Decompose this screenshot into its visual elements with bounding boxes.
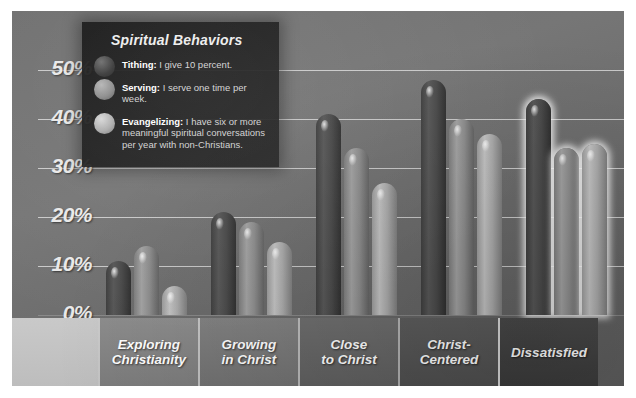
bar-highlight-gloss <box>377 189 385 201</box>
legend-item-text: Evangelizing: I have six or more meaning… <box>122 114 269 151</box>
y-axis-tick-label: 20% <box>20 203 92 227</box>
bar-highlight-gloss <box>244 228 252 240</box>
legend-panel: Spiritual Behaviors Tithing: I give 10 p… <box>82 22 279 167</box>
legend-item[interactable]: Evangelizing: I have six or more meaning… <box>92 114 269 151</box>
bar-evangelizing-exploring-christianity[interactable] <box>162 286 187 315</box>
legend-item[interactable]: Tithing: I give 10 percent. <box>92 57 269 71</box>
bar-serving-christ-centered[interactable] <box>449 119 474 315</box>
bar-group[interactable] <box>308 70 408 315</box>
category-label-text: Christ-Centered <box>420 337 479 367</box>
category-label-strip: ExploringChristianityGrowingin ChristClo… <box>12 318 624 386</box>
legend-item-text: Serving: I serve one time per week. <box>122 80 269 105</box>
bar-tithing-close-to-christ[interactable] <box>316 114 341 315</box>
legend-item-list: Tithing: I give 10 percent.Serving: I se… <box>92 57 269 150</box>
bar-highlight-gloss <box>111 267 119 279</box>
bar-evangelizing-growing-in-christ[interactable] <box>267 242 292 316</box>
category-label-christ-centered[interactable]: Christ-Centered <box>398 318 498 386</box>
bar-evangelizing-christ-centered[interactable] <box>477 134 502 315</box>
chart-screenshot: 50%40%30%20%10%0% ExploringChristianityG… <box>0 0 636 398</box>
legend-item-name: Serving: <box>122 82 160 93</box>
bar-highlight-gloss <box>531 105 539 117</box>
bar-tithing-growing-in-christ[interactable] <box>211 212 236 315</box>
category-label-text: Closeto Christ <box>321 337 377 367</box>
category-label-exploring-christianity[interactable]: ExploringChristianity <box>98 318 198 386</box>
legend-item-name: Evangelizing: <box>122 116 183 127</box>
bar-group[interactable] <box>413 70 513 315</box>
legend-swatch-evangelizing <box>94 113 115 134</box>
bar-highlight-gloss <box>559 154 567 166</box>
category-label-text: Growingin Christ <box>222 337 277 367</box>
bar-serving-close-to-christ[interactable] <box>344 148 369 315</box>
legend-swatch-serving <box>94 79 115 100</box>
category-label-close-to-christ[interactable]: Closeto Christ <box>298 318 398 386</box>
bar-highlight-gloss <box>321 120 329 132</box>
legend-item[interactable]: Serving: I serve one time per week. <box>92 80 269 105</box>
category-labels: ExploringChristianityGrowingin ChristClo… <box>98 318 598 386</box>
bar-highlight-gloss <box>139 252 147 264</box>
bar-evangelizing-dissatisfied[interactable] <box>582 144 607 316</box>
bar-group[interactable] <box>518 70 618 315</box>
legend-swatch-tithing <box>94 56 115 77</box>
bar-tithing-exploring-christianity[interactable] <box>106 261 131 315</box>
category-label-text: ExploringChristianity <box>112 337 186 367</box>
bar-highlight-gloss <box>454 125 462 137</box>
bar-highlight-gloss <box>587 150 595 162</box>
category-label-growing-in-christ[interactable]: Growingin Christ <box>198 318 298 386</box>
legend-item-name: Tithing: <box>122 59 157 70</box>
bar-highlight-gloss <box>349 154 357 166</box>
category-label-text: Dissatisfied <box>511 345 587 360</box>
bar-tithing-christ-centered[interactable] <box>421 80 446 315</box>
category-label-dissatisfied[interactable]: Dissatisfied <box>498 318 598 386</box>
bar-highlight-gloss <box>426 86 434 98</box>
bar-highlight-gloss <box>216 218 224 230</box>
legend-item-text: Tithing: I give 10 percent. <box>122 57 232 71</box>
chart-frame: 50%40%30%20%10%0% ExploringChristianityG… <box>12 11 624 386</box>
y-axis-tick-label: 10% <box>20 252 92 276</box>
bar-highlight-gloss <box>482 140 490 152</box>
bar-serving-dissatisfied[interactable] <box>554 148 579 315</box>
bar-serving-exploring-christianity[interactable] <box>134 246 159 315</box>
bar-highlight-gloss <box>272 248 280 260</box>
bar-evangelizing-close-to-christ[interactable] <box>372 183 397 315</box>
category-strip-spacer <box>12 318 98 386</box>
legend-title: Spiritual Behaviors <box>111 32 269 48</box>
bar-tithing-dissatisfied[interactable] <box>526 99 551 315</box>
bar-highlight-gloss <box>167 292 175 304</box>
bar-serving-growing-in-christ[interactable] <box>239 222 264 315</box>
